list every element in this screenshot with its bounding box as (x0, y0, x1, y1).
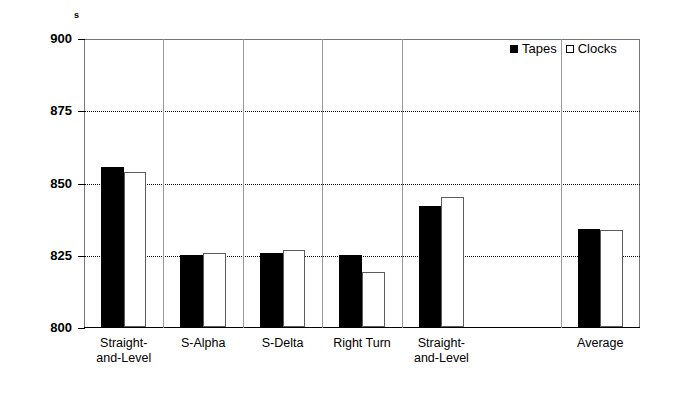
category-separator (322, 39, 323, 328)
bar-group (163, 39, 242, 327)
y-tick-mark-800 (78, 328, 85, 329)
category-separator (163, 39, 164, 328)
bar-tapes-5 (578, 229, 601, 327)
y-tick-label-875: 875 (26, 104, 72, 117)
legend-label-clocks: Clocks (578, 42, 617, 56)
legend-item-tapes: Tapes (510, 42, 557, 56)
bar-group (561, 39, 640, 327)
y-tick-mark-825 (78, 256, 85, 257)
bar-group (402, 39, 481, 327)
bar-clocks-0 (124, 172, 147, 327)
bar-group (84, 39, 163, 327)
bar-clocks-4 (441, 197, 464, 327)
x-axis-label-line: and-Level (382, 351, 501, 366)
legend-label-tapes: Tapes (522, 42, 557, 56)
legend-swatch-open-square-icon (566, 45, 574, 53)
chart-legend: Tapes Clocks (510, 42, 617, 56)
bars-group (84, 39, 640, 328)
plot-area (84, 39, 640, 328)
category-separator (402, 39, 403, 328)
x-axis-labels: Straight-and-LevelS-AlphaS-DeltaRight Tu… (84, 336, 640, 392)
y-tick-mark-875 (78, 111, 85, 112)
y-axis-unit-label: s (74, 10, 79, 20)
legend-item-clocks: Clocks (566, 42, 617, 56)
x-axis-label: Straight-and-Level (382, 336, 501, 366)
bar-tapes-2 (260, 253, 283, 327)
bar-group (243, 39, 322, 327)
x-axis-label-line: Average (541, 336, 660, 351)
x-axis-label: Average (541, 336, 660, 351)
bar-tapes-1 (180, 255, 203, 327)
bar-clocks-1 (203, 253, 226, 327)
bar-clocks-2 (283, 250, 306, 327)
category-separator (243, 39, 244, 328)
y-tick-mark-900 (78, 39, 85, 40)
y-tick-label-850: 850 (26, 177, 72, 190)
category-separator (561, 39, 562, 328)
bar-chart: s 800825850875900 Straight-and-LevelS-Al… (0, 0, 674, 400)
y-tick-label-800: 800 (26, 321, 72, 334)
x-axis-label-line: Straight- (382, 336, 501, 351)
y-tick-mark-850 (78, 184, 85, 185)
x-axis-label-line: and-Level (64, 351, 183, 366)
y-tick-label-825: 825 (26, 249, 72, 262)
bar-group (322, 39, 401, 327)
bar-tapes-3 (339, 255, 362, 327)
bar-tapes-4 (419, 206, 442, 327)
legend-swatch-filled-square-icon (510, 45, 518, 53)
y-tick-label-900: 900 (26, 32, 72, 45)
bar-clocks-5 (600, 230, 623, 327)
bar-clocks-3 (362, 272, 385, 327)
bar-tapes-0 (101, 167, 124, 327)
